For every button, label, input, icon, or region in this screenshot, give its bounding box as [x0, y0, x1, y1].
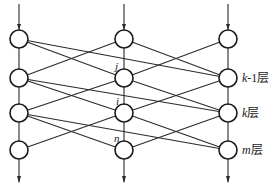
arrow-down-icon [122, 24, 126, 30]
arrow-down-icon [122, 176, 126, 183]
layer-label-suffix: 层 [247, 106, 259, 120]
arrow-down-icon [226, 176, 230, 183]
arrow-down-icon [226, 24, 230, 30]
layer-label-var: m [242, 143, 251, 157]
arrow-down-icon [17, 176, 21, 183]
node-label-i: i [116, 96, 119, 107]
layer-label-suffix: -1层 [247, 71, 269, 85]
node-layer0-left [10, 30, 28, 48]
vertical-line-group [19, 39, 228, 150]
layered-network-diagram [0, 0, 274, 191]
node-layer0-middle [115, 30, 133, 48]
node-layer3-right [219, 141, 237, 159]
node-layer3-left [10, 141, 28, 159]
node-label-j: j [115, 61, 118, 72]
node-layer2-left [10, 104, 28, 122]
node-layer2-right [219, 104, 237, 122]
layer-label-suffix: 层 [251, 143, 263, 157]
node-layer1-right [219, 69, 237, 87]
layer-label-k-minus-1: k-1层 [242, 72, 269, 84]
arrow-down-icon [17, 24, 21, 30]
node-label-n: n [114, 133, 120, 144]
node-layer0-right [219, 30, 237, 48]
layer-label-k: k层 [242, 107, 259, 119]
layer-label-m: m层 [242, 144, 263, 156]
node-layer1-left [10, 69, 28, 87]
